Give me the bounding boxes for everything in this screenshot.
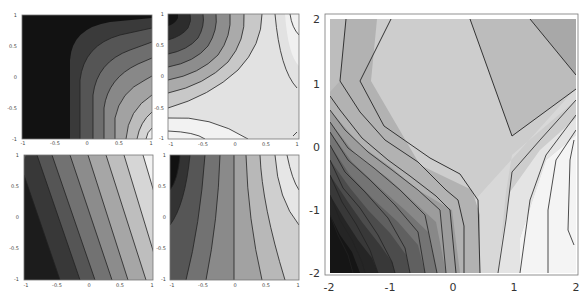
x-tick: 1 (511, 281, 518, 294)
x-tick: -1 (169, 141, 174, 147)
panel-top-left: 1 0.5 0 -0.5 -1 -1 -0.5 0 0.5 1 (7, 12, 152, 146)
y-tick: 0 (16, 214, 19, 220)
y-tick: 0.5 (9, 43, 17, 49)
y-tick: 1 (14, 12, 17, 18)
x-tick: 0 (87, 282, 90, 288)
x-tick: 1 (150, 282, 153, 288)
x-tick: 0.5 (262, 282, 270, 288)
x-tick: 1 (296, 282, 299, 288)
y-tick: -0.5 (7, 105, 17, 111)
x-tick: -0.5 (50, 140, 60, 146)
y-tick: -1 (14, 276, 19, 282)
y-tick: 0 (161, 73, 164, 79)
panel-bottom-right: 1 0.5 0 -0.5 -1 -1 -0.5 0 0.5 1 (156, 152, 299, 288)
y-tick: 1 (161, 11, 164, 17)
y-tick: -1 (12, 136, 17, 142)
panel-large: 2 1 0 -1 -2 -2 -1 0 1 2 (309, 13, 579, 294)
x-tick: -2 (324, 281, 335, 294)
y-tick: 1 (16, 152, 19, 158)
x-tick: -0.5 (198, 282, 208, 288)
y-tick: -0.5 (154, 105, 164, 111)
y-tick: -1 (309, 204, 320, 217)
y-tick: 0.5 (156, 42, 164, 48)
x-tick: -0.5 (198, 141, 208, 147)
y-tick: -2 (309, 267, 320, 280)
x-tick: 0 (233, 282, 236, 288)
x-tick: 1 (295, 141, 298, 147)
contour-figure: 1 0.5 0 -0.5 -1 -1 -0.5 0 0.5 1 (0, 0, 588, 303)
x-tick: -1 (385, 281, 396, 294)
x-tick: -1 (24, 282, 29, 288)
y-tick: 1 (313, 78, 320, 91)
x-tick: 0 (450, 281, 457, 294)
y-tick: 0.5 (158, 183, 166, 189)
panel-top-right: 1 0.5 0 -0.5 -1 -1 -0.5 0 0.5 1 (154, 11, 299, 147)
y-tick: 2 (313, 13, 320, 26)
x-tick: 0.5 (116, 282, 124, 288)
x-tick: 1 (149, 140, 152, 146)
y-tick: -0.5 (9, 245, 19, 251)
y-tick: -1 (159, 135, 164, 141)
y-tick: 0.5 (11, 183, 19, 189)
x-tick: -1 (170, 282, 175, 288)
x-tick: -1 (21, 140, 26, 146)
panel-bottom-left: 1 0.5 0 -0.5 -1 -1 -0.5 0 0.5 1 (9, 152, 180, 288)
y-tick: 0 (163, 214, 166, 220)
x-tick: 0 (85, 140, 88, 146)
y-tick: 1 (163, 152, 166, 158)
y-tick: -1 (161, 276, 166, 282)
x-tick: 0.5 (262, 141, 270, 147)
x-tick: 2 (573, 281, 580, 294)
x-tick: -0.5 (52, 282, 62, 288)
y-tick: 0 (313, 141, 320, 154)
x-tick: 0 (233, 141, 236, 147)
y-tick: -0.5 (156, 245, 166, 251)
y-tick: 0 (14, 74, 17, 80)
x-tick: 0.5 (115, 140, 123, 146)
